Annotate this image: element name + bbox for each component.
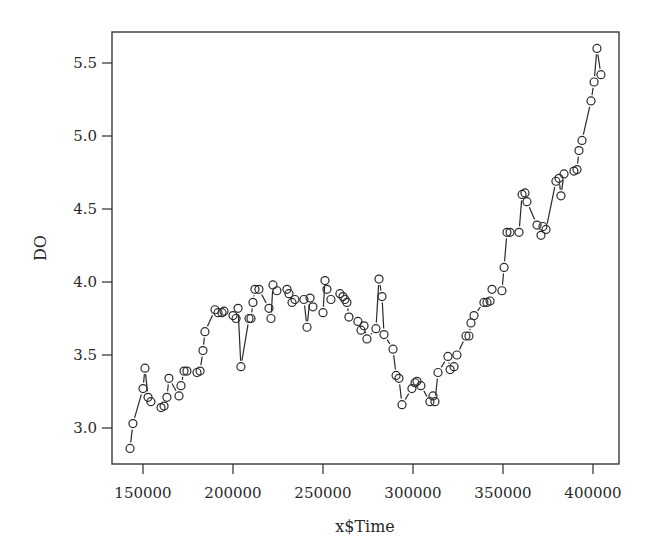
data-point-marker [380, 331, 388, 339]
data-point-marker [593, 44, 601, 52]
x-tick-label: 350000 [474, 484, 531, 502]
y-axis: 3.03.54.04.55.05.5 [73, 54, 112, 437]
data-point-marker [575, 147, 583, 155]
data-point-marker [126, 444, 134, 452]
data-point-marker [375, 275, 383, 283]
connector-segment [201, 357, 202, 366]
y-tick-label: 4.0 [73, 273, 97, 291]
data-point-marker [234, 304, 242, 312]
connector-segment [598, 54, 600, 68]
connector-segment [478, 307, 481, 311]
connector-segment [172, 384, 176, 391]
x-tick-label: 200000 [204, 484, 261, 502]
data-point-marker [177, 382, 185, 390]
data-point-marker [273, 287, 281, 295]
data-point-marker [175, 392, 183, 400]
data-point-marker [249, 298, 257, 306]
data-point-marker [319, 309, 327, 317]
connector-segment [305, 305, 307, 321]
connector-segment [547, 187, 554, 223]
connector-segment [204, 338, 205, 345]
connector-segment [144, 374, 145, 382]
data-point-marker [139, 385, 147, 393]
y-axis-title: DO [31, 235, 50, 261]
data-point-marker [515, 228, 523, 236]
data-point-marker [321, 277, 329, 285]
connector-segment [371, 333, 372, 334]
connector-segment [424, 391, 427, 397]
data-point-marker [470, 312, 478, 320]
data-point-marker [163, 393, 171, 401]
series-points [126, 44, 605, 452]
data-point-marker [237, 363, 245, 371]
connector-segment [262, 295, 266, 303]
data-point-marker [160, 402, 168, 410]
data-point-marker [309, 303, 317, 311]
connector-segment [394, 355, 396, 369]
data-point-marker [389, 345, 397, 353]
data-point-marker [199, 347, 207, 355]
x-tick-label: 150000 [114, 484, 171, 502]
x-tick-label: 250000 [294, 484, 351, 502]
y-tick-label: 3.5 [73, 346, 97, 364]
connector-segment [441, 362, 445, 368]
connector-segment [529, 207, 534, 219]
x-tick-label: 400000 [564, 484, 621, 502]
connector-segment [376, 285, 378, 323]
data-point-marker [327, 296, 335, 304]
data-point-marker [434, 369, 442, 377]
data-point-marker [578, 136, 586, 144]
data-point-marker [488, 285, 496, 293]
data-point-marker [557, 192, 565, 200]
data-point-marker [165, 374, 173, 382]
connector-segment [560, 184, 561, 190]
connector-segment [182, 377, 183, 380]
data-point-marker [269, 281, 277, 289]
y-tick-label: 4.5 [73, 200, 97, 218]
y-tick-label: 3.0 [73, 419, 97, 437]
data-point-marker [196, 367, 204, 375]
data-point-marker [521, 189, 529, 197]
data-point-marker [453, 351, 461, 359]
data-point-marker [523, 198, 531, 206]
data-point-marker [141, 364, 149, 372]
series-connector-lines [131, 54, 600, 442]
data-point-marker [498, 287, 506, 295]
x-axis: 150000200000250000300000350000400000 [114, 464, 621, 502]
connector-segment [459, 341, 463, 349]
connector-segment [207, 315, 212, 326]
data-point-marker [267, 315, 275, 323]
data-point-marker [201, 328, 209, 336]
connector-segment [595, 54, 597, 76]
connector-segment [592, 88, 593, 95]
connector-segment [578, 157, 579, 164]
connector-segment [520, 200, 522, 226]
connector-segment [583, 107, 589, 135]
data-point-marker [372, 325, 380, 333]
connector-segment [405, 394, 409, 400]
connector-segment [382, 303, 383, 329]
connector-segment [400, 384, 402, 398]
connector-segment [252, 308, 253, 312]
data-point-marker [398, 401, 406, 409]
data-point-marker [345, 313, 353, 321]
x-tick-label: 300000 [384, 484, 441, 502]
data-point-marker [303, 323, 311, 331]
connector-segment [168, 384, 169, 391]
connector-segment [242, 324, 248, 360]
data-point-marker [444, 352, 452, 360]
connector-segment [387, 340, 390, 344]
plot-frame [112, 32, 619, 464]
data-point-marker [363, 335, 371, 343]
data-point-marker [378, 293, 386, 301]
y-tick-label: 5.0 [73, 127, 97, 145]
data-point-marker [590, 78, 598, 86]
data-point-marker [500, 263, 508, 271]
connector-segment [505, 238, 507, 261]
data-point-marker [573, 166, 581, 174]
connector-segment [380, 285, 381, 291]
data-point-marker [597, 71, 605, 79]
y-tick-label: 5.5 [73, 54, 97, 72]
data-point-marker [129, 420, 137, 428]
data-point-marker [587, 97, 595, 105]
